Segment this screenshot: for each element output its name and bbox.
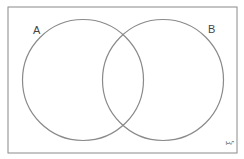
universal-set-border	[8, 7, 237, 153]
venn-diagram: A B ξ	[0, 0, 244, 159]
set-a-label: A	[33, 24, 41, 36]
universal-set-symbol: ξ	[225, 140, 234, 145]
set-b-label: B	[208, 23, 215, 35]
